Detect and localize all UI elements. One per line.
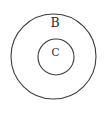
euler-diagram: B C: [0, 0, 107, 115]
set-label-inner: C: [51, 46, 59, 58]
diagram-canvas: B C: [0, 0, 107, 115]
set-label-outer: B: [50, 15, 59, 30]
